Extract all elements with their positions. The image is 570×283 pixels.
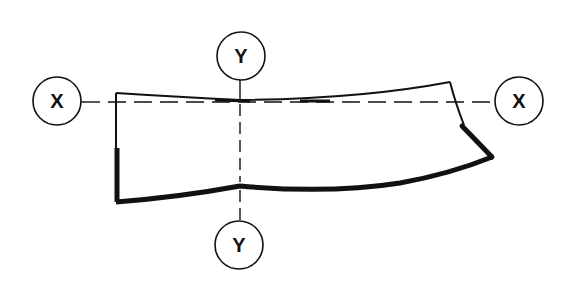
- panel-outline: [116, 82, 492, 202]
- x-axis-label-left: X: [50, 90, 64, 112]
- y-axis-label-bottom: Y: [232, 234, 246, 256]
- y-axis-label-top: Y: [234, 45, 248, 67]
- warped-panel-diagram: X X Y Y: [0, 0, 570, 283]
- y-axis-marker-bottom: Y: [215, 221, 263, 269]
- x-axis-marker-left: X: [33, 77, 81, 125]
- x-axis-marker-right: X: [495, 77, 543, 125]
- y-axis-marker-top: Y: [217, 32, 265, 80]
- x-axis-label-right: X: [512, 90, 526, 112]
